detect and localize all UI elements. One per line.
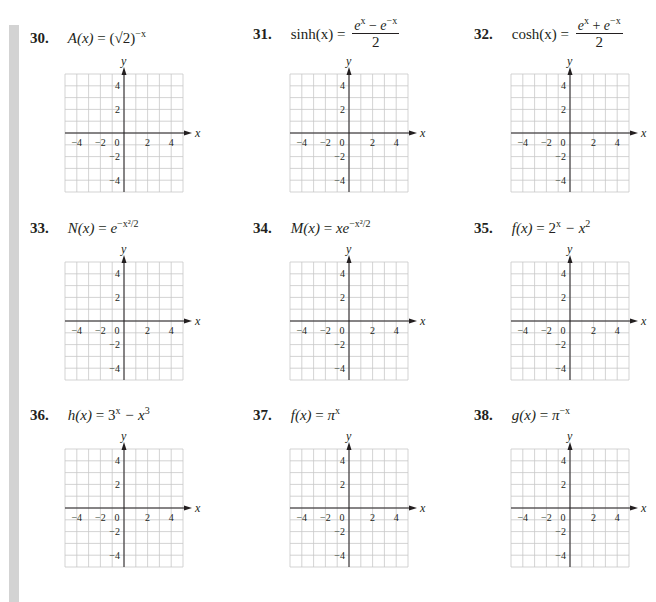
y-tick-label: 4 [340,455,345,466]
coordinate-grid: xy−4−202442−2−4 [511,74,629,192]
graph-34: xy−4−202442−2−4 [290,262,408,380]
fraction-numerator: ex − e−x [352,18,399,34]
x-tick-label: −4 [296,137,307,148]
exponent: −x²/2 [117,218,138,229]
graph-33: xy−4−202442−2−4 [65,262,183,380]
coordinate-grid: xy−4−202442−2−4 [290,262,408,380]
y-tick-label: 2 [561,104,566,115]
y-tick-label: −4 [109,550,120,561]
function-tail: − x [561,220,585,236]
problem-number: 36. [30,405,64,425]
x-axis-label: x [419,126,426,140]
y-tick-label: 2 [340,479,345,490]
x-tick-label: 4 [169,325,174,336]
y-axis-label: y [120,54,127,68]
x-tick-label: 4 [615,137,620,148]
function-formula: sinh(x) = [291,26,346,42]
x-axis-label: x [640,126,647,140]
y-tick-label: 4 [115,455,120,466]
x-tick-label: 0 [561,325,566,336]
x-tick-label: −2 [541,137,552,148]
x-tick-label: 4 [394,325,399,336]
x-tick-label: 2 [370,325,375,336]
problem-heading: 30. A(x) = (√2)−x [30,28,146,48]
x-tick-label: 2 [370,512,375,523]
function-formula: cosh(x) = [512,26,569,42]
x-tick-label: −2 [320,325,331,336]
page-margin-bar [9,25,19,602]
y-tick-label: −2 [555,339,566,350]
coordinate-grid: xy−4−202442−2−4 [65,74,183,192]
y-tick-label: −4 [109,175,120,186]
function-name: f(x) [291,407,312,423]
x-tick-label: 2 [591,137,596,148]
x-axis-label: x [194,126,201,140]
fraction: ex − e−x 2 [352,18,399,50]
y-tick-label: −4 [334,175,345,186]
problem-number: 37. [253,405,287,425]
y-tick-label: −4 [109,363,120,374]
y-tick-label: 2 [561,292,566,303]
coordinate-grid: xy−4−202442−2−4 [290,449,408,567]
y-axis-label: y [345,242,352,256]
y-tick-label: −2 [555,526,566,537]
x-tick-label: 4 [394,137,399,148]
x-tick-label: −2 [95,325,106,336]
fraction-numerator: ex + e−x [576,18,623,34]
x-axis-label: x [640,314,647,328]
y-tick-label: 4 [561,268,566,279]
x-tick-label: −2 [320,137,331,148]
problem-heading: 35. f(x) = 2x − x2 [474,218,590,238]
x-tick-label: 4 [615,512,620,523]
y-tick-label: −2 [109,526,120,537]
x-tick-label: 2 [145,137,150,148]
y-tick-label: −2 [334,526,345,537]
x-tick-label: 0 [115,137,120,148]
y-axis-label: y [566,54,573,68]
x-axis-label: x [640,501,647,515]
fraction: ex + e−x 2 [576,18,623,50]
problem-heading: 34. M(x) = xe−x²/2 [253,218,371,238]
fraction-denominator: 2 [352,34,399,50]
function-base: π [328,407,336,423]
problem-number: 35. [474,218,508,238]
graph-30: xy−4−202442−2−4 [65,74,183,192]
x-tick-label: −2 [541,325,552,336]
x-tick-label: −4 [517,137,528,148]
y-axis-label: y [345,54,352,68]
x-tick-label: −2 [320,512,331,523]
function-formula: f(x) = πx [291,407,340,423]
y-tick-label: −2 [334,151,345,162]
exponent: −x [610,15,621,26]
x-tick-label: 2 [370,137,375,148]
x-tick-label: −2 [95,137,106,148]
x-tick-label: 0 [115,512,120,523]
function-base: 2 [549,220,557,236]
problem-number: 38. [474,405,508,425]
x-tick-label: −4 [296,512,307,523]
y-tick-label: 4 [561,80,566,91]
x-tick-label: 2 [591,512,596,523]
function-base: (√2) [110,30,136,46]
exponent: −x²/2 [349,218,370,229]
exponent: 2 [585,218,590,229]
y-tick-label: 4 [561,455,566,466]
graph-32: xy−4−202442−2−4 [511,74,629,192]
function-formula: A(x) = (√2)−x [68,30,146,46]
graph-35: xy−4−202442−2−4 [511,262,629,380]
y-tick-label: 2 [115,479,120,490]
exponent: −x [135,28,146,39]
function-name: g(x) [512,407,536,423]
y-tick-label: 2 [340,104,345,115]
x-axis-label: x [194,501,201,515]
y-tick-label: 2 [115,104,120,115]
function-formula: N(x) = e−x²/2 [68,220,139,236]
y-tick-label: −2 [334,339,345,350]
function-name: h(x) [68,407,92,423]
problem-heading: 32. cosh(x) = ex + e−x 2 [474,18,623,50]
function-name: M(x) [291,220,320,236]
function-base: xe [336,220,349,236]
exponent: −x [559,405,570,416]
x-tick-label: −4 [517,325,528,336]
y-tick-label: 2 [115,292,120,303]
